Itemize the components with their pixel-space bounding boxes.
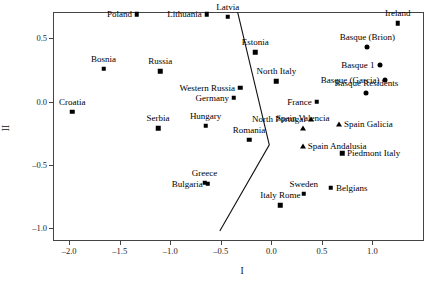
y-axis-tick xyxy=(49,102,54,103)
data-point-label: Lithuania xyxy=(167,10,202,19)
data-point-label: North Italy xyxy=(257,67,297,76)
scatter-plot-figure: 0.50.0–0.5–1.0–2.0–1.5–1.0–0.50.00.51.0P… xyxy=(0,0,435,288)
data-point-label: Romania xyxy=(233,126,266,135)
data-point-label: Estonia xyxy=(242,38,269,47)
data-point-label: Spain Valencia xyxy=(276,114,330,123)
y-axis-tick-label: 0.0 xyxy=(36,97,47,106)
x-axis-tick-label: –2.0 xyxy=(62,247,77,256)
data-point-marker xyxy=(205,182,210,187)
data-point-label: Serbia xyxy=(147,114,170,123)
data-point-marker xyxy=(70,109,75,114)
data-point-marker xyxy=(135,12,140,17)
data-point-label: Bulgaria xyxy=(172,179,203,188)
y-axis-tick xyxy=(49,38,54,39)
x-axis-tick xyxy=(372,240,373,245)
x-axis-tick xyxy=(322,240,323,245)
data-point-marker xyxy=(101,66,106,71)
data-point-label: Western Russia xyxy=(179,83,235,92)
data-point-label: Italy Rome xyxy=(260,191,300,200)
figure-caption xyxy=(6,275,429,287)
data-point-label: Croatia xyxy=(59,98,86,107)
data-point-marker xyxy=(301,192,306,197)
data-point-marker xyxy=(247,137,252,142)
data-point-label: Basque Residents xyxy=(334,79,398,88)
y-axis-tick-label: –0.5 xyxy=(32,161,47,170)
data-point-marker xyxy=(300,143,306,148)
data-point-marker xyxy=(278,203,283,208)
data-point-marker xyxy=(329,185,334,190)
y-axis-tick xyxy=(49,165,54,166)
data-point-label: Bosnia xyxy=(91,55,116,64)
x-axis-tick xyxy=(170,240,171,245)
data-point-marker xyxy=(158,69,163,74)
x-axis-tick xyxy=(221,240,222,245)
x-axis-tick-label: –0.5 xyxy=(213,247,228,256)
plot-area: 0.50.0–0.5–1.0–2.0–1.5–1.0–0.50.00.51.0P… xyxy=(53,12,424,241)
data-point-marker xyxy=(336,122,342,127)
data-point-marker xyxy=(156,126,161,131)
data-point-label: Latvia xyxy=(216,3,239,12)
x-axis-tick xyxy=(69,240,70,245)
y-axis-tick xyxy=(49,228,54,229)
data-point-label: Basque 1 xyxy=(341,60,374,69)
y-axis-tick-label: –1.0 xyxy=(32,224,47,233)
data-point-label: Russia xyxy=(148,57,172,66)
x-axis-tick-label: 1.0 xyxy=(367,247,378,256)
x-axis-tick-label: –1.5 xyxy=(112,247,127,256)
data-point-label: Basque (Brion) xyxy=(340,33,395,42)
data-point-marker xyxy=(232,96,237,101)
data-point-label: Greece xyxy=(192,169,217,178)
data-point-marker xyxy=(365,45,370,50)
x-axis-tick-label: –1.0 xyxy=(163,247,178,256)
data-point-marker xyxy=(226,15,231,20)
data-point-label: Spain Galicia xyxy=(344,120,393,129)
data-point-marker xyxy=(253,50,258,55)
data-point-marker xyxy=(364,90,369,95)
data-point-marker xyxy=(204,12,209,17)
data-point-marker xyxy=(274,79,279,84)
data-point-marker xyxy=(340,151,345,156)
data-point-label: Sweden xyxy=(289,180,318,189)
data-point-marker xyxy=(238,85,243,90)
data-point-label: Ireland xyxy=(385,9,410,18)
x-axis-tick-label: 0.0 xyxy=(266,247,277,256)
data-point-marker xyxy=(315,99,320,104)
data-point-marker xyxy=(300,126,306,131)
x-axis-tick xyxy=(271,240,272,245)
x-axis-tick-label: 0.5 xyxy=(317,247,328,256)
y-axis-tick-label: 0.5 xyxy=(36,34,47,43)
data-point-marker xyxy=(203,123,208,128)
data-point-label: Belgians xyxy=(336,183,368,192)
y-axis-title: II xyxy=(1,125,11,131)
data-point-marker xyxy=(395,21,400,26)
data-point-label: France xyxy=(287,97,312,106)
data-point-marker xyxy=(377,62,382,67)
data-point-label: Piedmont Italy xyxy=(347,149,400,158)
x-axis-tick xyxy=(120,240,121,245)
data-point-label: Poland xyxy=(107,10,132,19)
data-point-label: Hungary xyxy=(190,112,222,121)
data-point-label: Germany xyxy=(195,93,229,102)
